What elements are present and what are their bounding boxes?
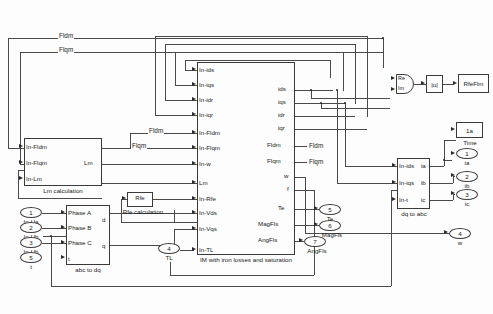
input-port-4-tl[interactable]: 4 (158, 243, 180, 254)
input-arrow (392, 163, 396, 167)
port-in-flqm: In-Flqm (199, 144, 220, 151)
port-in-w: In-w (199, 160, 211, 167)
input-arrow (61, 225, 65, 229)
input-arrow (192, 180, 196, 184)
input-arrow (192, 130, 196, 134)
wire (295, 146, 307, 147)
block-rfeflm-display[interactable]: RfeFlm (458, 74, 489, 93)
port-out-idr: idr (278, 111, 285, 118)
wire (367, 36, 368, 117)
wire (311, 98, 390, 99)
wire (321, 108, 390, 109)
port-out-q: q (102, 242, 105, 249)
block-time[interactable]: 1a (456, 122, 483, 138)
wire (311, 90, 312, 98)
wire (174, 210, 175, 222)
wire (444, 140, 445, 166)
input-port-3[interactable]: 3 (20, 237, 42, 248)
wire (100, 183, 197, 184)
input-arrow (19, 144, 23, 148)
port-phase-b: Phase B (68, 224, 91, 231)
block-label-rfe-calculation: Rfe calculation (113, 208, 173, 215)
output-label-ic: ic (450, 200, 484, 207)
port-out-ids: ids (278, 85, 286, 92)
output-port-2-ib[interactable]: 2 (456, 171, 478, 182)
output-label-ia: ia (450, 159, 484, 166)
wire (175, 52, 343, 53)
input-arrow (19, 160, 23, 164)
output-arrow (299, 238, 303, 242)
block-label-dq-to-abc: dq to abc (395, 210, 433, 217)
port-in-tl: In-TL (199, 246, 213, 253)
input-port-2[interactable]: 2 (20, 222, 42, 233)
input-arrow (61, 255, 65, 259)
wire-label-fldm-3: Fldm (308, 142, 324, 149)
input-label-tl: TL (152, 254, 186, 261)
port-dq-in-iqs: In-iqs (399, 179, 414, 186)
wire (391, 190, 392, 286)
block-label-rfe: Rfe (129, 195, 151, 201)
wire-label-flqm-2: Flqm (131, 142, 147, 149)
input-arrow (453, 81, 457, 85)
port-in-fldm: In-Fldm (199, 129, 220, 136)
port-dq-in-t: In-t (399, 196, 408, 203)
wire (153, 199, 197, 200)
wire (355, 44, 356, 104)
port-dq-out-ic: ic (421, 196, 425, 203)
port-out-iqr: iqr (278, 124, 285, 131)
wire (170, 275, 314, 276)
input-port-1[interactable]: 1 (20, 207, 42, 218)
wire (337, 183, 397, 184)
input-arrow (192, 67, 196, 71)
output-port-4-w[interactable]: 4 (449, 228, 471, 239)
input-label-t: t (14, 263, 48, 270)
wire (185, 60, 186, 70)
input-arrow (192, 82, 196, 86)
port-out-te: Te (278, 204, 285, 211)
output-arrow (444, 230, 448, 234)
wire (51, 286, 391, 287)
input-arrow (192, 97, 196, 101)
port-out-w: w (284, 172, 288, 179)
port-phase-c: Phase C (68, 239, 92, 246)
output-port-1-ia[interactable]: 1 (456, 148, 478, 159)
wire-label-flqm-1: Flqm (58, 46, 74, 53)
output-port-7-angfls[interactable]: 7 (304, 236, 326, 247)
port-in-vqs: In-Vqs (199, 225, 217, 232)
output-port-3-ic[interactable]: 3 (456, 189, 478, 200)
output-port-5-te[interactable]: 5 (319, 204, 341, 215)
port-out-fldm: Fldm (267, 141, 281, 148)
wire (170, 262, 171, 275)
wire (337, 90, 338, 183)
port-phase-a: Phase A (68, 209, 91, 216)
wire (8, 38, 9, 148)
wire (295, 116, 355, 117)
input-arrow (451, 127, 455, 131)
wire (8, 148, 24, 149)
port-in-ids: In-ids (199, 66, 214, 73)
port-out-d: d (102, 216, 105, 223)
wire (295, 162, 307, 163)
simulink-diagram-canvas: Fldm Flqm Fldm Flqm Fldm Flqm In-Fldm In… (0, 0, 493, 314)
output-arrow (314, 222, 318, 226)
input-arrow (19, 176, 23, 180)
wire (174, 229, 175, 245)
wire (18, 170, 19, 198)
port-out-f: f (287, 185, 289, 192)
block-label-im-main: IM with iron losses and saturation (192, 256, 300, 263)
input-arrow (391, 87, 395, 91)
port-out-angfls: AngFls (258, 236, 277, 243)
wire (383, 52, 384, 68)
block-complex-to-magnitude[interactable]: |u| (426, 75, 443, 93)
port-in-flqm: In-Flqm (26, 159, 47, 166)
port-out-magfls: MagFls (258, 220, 278, 227)
input-arrow (391, 76, 395, 80)
port-in-lm: In-Lm (26, 175, 42, 182)
input-port-5-t[interactable]: 5 (20, 252, 42, 263)
output-port-6-magfls[interactable]: 6 (319, 220, 341, 231)
wire-label-flqm-3: Flqm (308, 158, 324, 165)
wire (295, 129, 367, 130)
input-arrow (192, 247, 196, 251)
input-arrow (192, 112, 196, 116)
wire (18, 198, 102, 199)
